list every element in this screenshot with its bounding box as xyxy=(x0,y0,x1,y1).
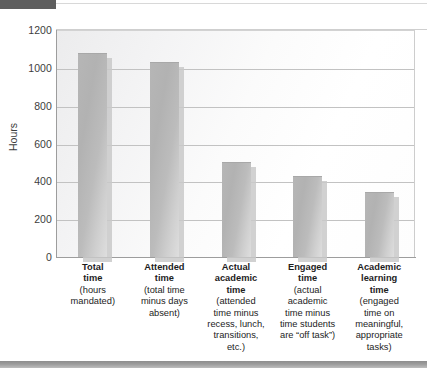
bar-slot xyxy=(293,30,322,257)
category-label-head: Engaged time xyxy=(273,262,343,285)
x-axis-category-labels: Total time(hours mandated)Attended time(… xyxy=(57,262,415,358)
page-footer-bar xyxy=(0,361,427,368)
bar-slot xyxy=(78,30,107,257)
bar-chart: 120010008006004002000 Hours Total time(h… xyxy=(0,12,427,360)
x-axis-category-label: Actual academic time(attended time minus… xyxy=(201,262,271,353)
y-axis-tick-label: 1200 xyxy=(0,24,52,36)
bar-series xyxy=(57,30,415,257)
category-label-head: Actual academic time xyxy=(201,262,271,296)
category-label-sub: (attended time minus recess, lunch, tran… xyxy=(201,296,271,353)
y-axis-tick-label: 200 xyxy=(0,213,52,225)
page-header-rule xyxy=(56,3,427,4)
x-axis-category-label: Attended time(total time minus days abse… xyxy=(130,262,200,319)
chart-page: 120010008006004002000 Hours Total time(h… xyxy=(0,0,427,368)
bar[interactable] xyxy=(365,192,394,257)
bar-slot xyxy=(150,30,179,257)
bar[interactable] xyxy=(293,176,322,257)
category-label-sub: (hours mandated) xyxy=(58,285,128,308)
y-axis-tick-label: 0 xyxy=(0,251,52,263)
bar[interactable] xyxy=(222,162,251,257)
bar[interactable] xyxy=(150,62,179,257)
y-axis-title: Hours xyxy=(7,107,19,167)
category-label-sub: (actual academic time minus time student… xyxy=(273,285,343,342)
category-label-sub: (total time minus days absent) xyxy=(130,285,200,319)
page-header-block xyxy=(0,0,56,9)
bar-slot xyxy=(365,30,394,257)
y-axis-tick-label: 1000 xyxy=(0,62,52,74)
category-label-head: Total time xyxy=(58,262,128,285)
x-axis-category-label: Engaged time(actual academic time minus … xyxy=(273,262,343,342)
bar[interactable] xyxy=(78,53,107,257)
category-label-head: Academic learning time xyxy=(344,262,414,296)
x-axis-category-label: Academic learning time(engaged time on m… xyxy=(344,262,414,353)
x-axis-category-label: Total time(hours mandated) xyxy=(58,262,128,308)
category-label-sub: (engaged time on meaningful, appropriate… xyxy=(344,296,414,353)
category-label-head: Attended time xyxy=(130,262,200,285)
y-axis-tick-label: 400 xyxy=(0,175,52,187)
bar-slot xyxy=(222,30,251,257)
